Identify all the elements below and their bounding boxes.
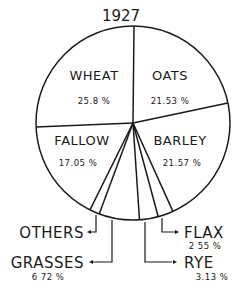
label-flax: FLAX xyxy=(184,224,224,242)
pct-rye: 3.13 % xyxy=(196,272,229,282)
pct-wheat: 25.8 % xyxy=(78,96,111,106)
label-oats: OATS xyxy=(152,68,188,83)
pct-barley: 21.57 % xyxy=(163,158,202,168)
label-rye: RYE xyxy=(184,254,214,272)
label-grasses: GRASSES xyxy=(11,254,84,272)
leader-lines xyxy=(90,215,175,262)
pct-oats: 21.53 % xyxy=(151,96,190,106)
slice-divider xyxy=(133,103,228,123)
label-fallow: FALLOW xyxy=(54,133,109,148)
pct-grasses: 6 72 % xyxy=(32,272,65,282)
label-others: OTHERS xyxy=(19,224,84,242)
slice-divider xyxy=(133,26,134,123)
pie-chart: 1927 WHEAT 25.8 % OATS 21.53 % FALLOW 17… xyxy=(0,0,243,288)
label-barley: BARLEY xyxy=(153,133,206,148)
slice-divider xyxy=(36,123,133,127)
arrowheads xyxy=(87,230,179,264)
pct-flax: 2 55 % xyxy=(189,241,222,251)
chart-title: 1927 xyxy=(102,7,140,25)
pct-fallow: 17.05 % xyxy=(59,158,98,168)
label-wheat: WHEAT xyxy=(69,68,118,83)
pie xyxy=(36,26,230,220)
